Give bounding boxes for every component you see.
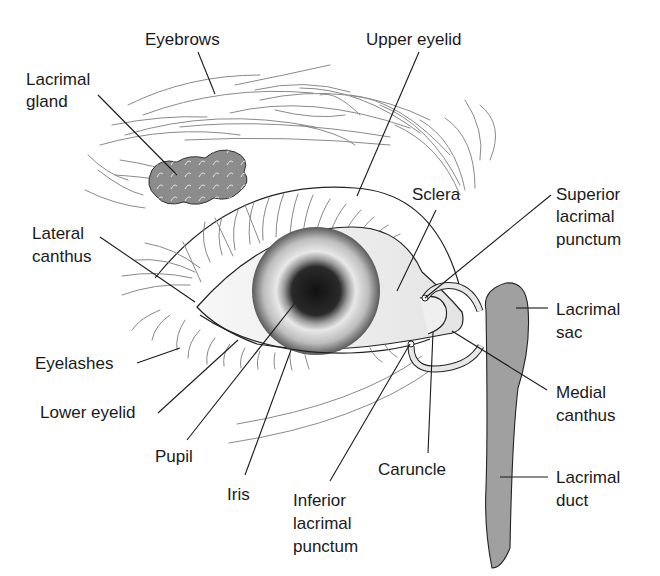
label-inferior-punctum-line1: Inferior bbox=[293, 491, 346, 510]
label-superior-punctum-line1: Superior bbox=[556, 185, 621, 204]
label-eyebrows: Eyebrows bbox=[145, 30, 220, 49]
label-lacrimal-gland-line1: Lacrimal bbox=[26, 70, 90, 89]
label-pupil: Pupil bbox=[155, 447, 193, 466]
label-inferior-punctum-line2: lacrimal bbox=[293, 514, 352, 533]
label-upper-eyelid: Upper eyelid bbox=[366, 30, 461, 49]
label-superior-punctum-line2: lacrimal bbox=[556, 207, 615, 226]
label-iris: Iris bbox=[227, 485, 250, 504]
lacrimal-gland bbox=[149, 150, 247, 204]
label-eyelashes: Eyelashes bbox=[35, 354, 113, 373]
label-caruncle: Caruncle bbox=[378, 460, 446, 479]
eye-anatomy-diagram: Eyebrows Upper eyelid Lacrimal gland Scl… bbox=[0, 0, 660, 576]
label-lacrimal-gland-line2: gland bbox=[26, 92, 68, 111]
iris bbox=[252, 227, 380, 355]
lacrimal-sac-duct bbox=[485, 283, 528, 568]
label-lower-eyelid: Lower eyelid bbox=[40, 403, 135, 422]
label-sclera: Sclera bbox=[412, 185, 461, 204]
label-lacrimal-sac-line1: Lacrimal bbox=[556, 300, 620, 319]
label-medial-canthus-line2: canthus bbox=[556, 406, 616, 425]
lower-lid-creases bbox=[229, 356, 434, 443]
label-lateral-canthus-line2: canthus bbox=[32, 247, 92, 266]
label-medial-canthus-line1: Medial bbox=[556, 383, 606, 402]
label-lacrimal-duct-line1: Lacrimal bbox=[556, 468, 620, 487]
label-superior-punctum-line3: punctum bbox=[556, 230, 621, 249]
label-lateral-canthus-line1: Lateral bbox=[32, 224, 84, 243]
label-inferior-punctum-line3: punctum bbox=[293, 537, 358, 556]
label-lacrimal-sac-line2: sac bbox=[556, 323, 583, 342]
label-lacrimal-duct-line2: duct bbox=[556, 491, 588, 510]
